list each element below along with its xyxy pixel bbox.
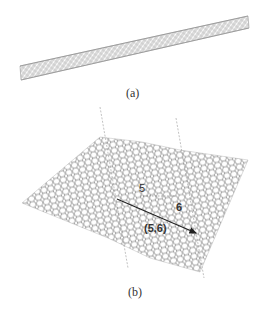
graphene-sheet <box>0 120 265 290</box>
label-m: 6 <box>176 201 182 213</box>
label-chiral-vector: (5,6) <box>144 222 167 234</box>
nanotube <box>20 16 249 80</box>
label-n: 5 <box>139 182 145 194</box>
caption-b: (b) <box>128 285 142 300</box>
figure <box>0 0 265 311</box>
caption-a: (a) <box>126 86 139 101</box>
